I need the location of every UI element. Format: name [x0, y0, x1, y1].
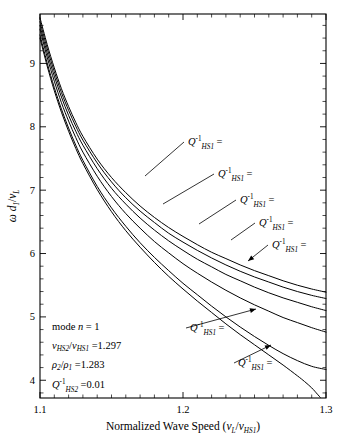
- y-tick-label: 5: [30, 311, 35, 322]
- y-tick-label: 8: [30, 121, 35, 132]
- x-tick-label: 1.1: [33, 404, 46, 415]
- y-tick-label: 7: [30, 185, 35, 196]
- y-tick-label: 9: [30, 58, 35, 69]
- x-tick-label: 1.2: [176, 404, 189, 415]
- x-tick-label: 1.3: [319, 404, 332, 415]
- annot-line-mode: mode n = 1: [52, 321, 100, 332]
- chart-svg: 1.11.21.3 456789 Q-1HS1 = Q-1HS1 = Q-1HS…: [0, 0, 346, 438]
- chart-figure: 1.11.21.3 456789 Q-1HS1 = Q-1HS1 = Q-1HS…: [0, 0, 346, 438]
- y-tick-label: 4: [30, 375, 36, 386]
- y-tick-label: 6: [30, 248, 35, 259]
